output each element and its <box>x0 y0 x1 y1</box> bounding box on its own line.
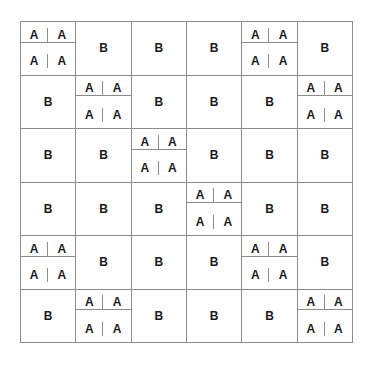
cell-a-label: A <box>269 268 296 282</box>
cell-b-label: B <box>21 290 76 344</box>
cell-b-label: B <box>132 76 187 130</box>
cell-a-label: A <box>76 108 103 122</box>
cell-b-label: B <box>132 290 187 344</box>
cell-a-block: AAAA <box>132 129 187 183</box>
cell-a-label: A <box>298 295 325 310</box>
cell-a-label: A <box>187 188 214 203</box>
cell-a-block: AAAA <box>298 290 353 344</box>
cell-b-label: B <box>298 236 353 290</box>
cell-b-label: B <box>187 76 242 130</box>
cell-a-label: A <box>298 108 325 122</box>
cell-a-label: A <box>76 322 103 336</box>
cell-a-label: A <box>103 322 130 336</box>
cell-a-label: A <box>187 215 214 229</box>
cell-a-label: A <box>159 135 186 150</box>
cell-b-label: B <box>76 22 131 76</box>
cell-a-label: A <box>103 295 130 310</box>
cell-a-block: AAAA <box>21 22 76 76</box>
cell-b-label: B <box>187 22 242 76</box>
cell-a-block: AAAA <box>242 236 297 290</box>
cell-b-label: B <box>242 183 297 237</box>
cell-a-label: A <box>269 28 296 43</box>
cell-a-label: A <box>325 322 352 336</box>
cell-a-label: A <box>76 295 103 310</box>
cell-a-label: A <box>242 28 269 43</box>
cell-a-label: A <box>48 54 75 68</box>
cell-a-label: A <box>298 81 325 96</box>
cell-a-label: A <box>159 161 186 175</box>
cell-b-label: B <box>21 76 76 130</box>
cell-a-label: A <box>103 108 130 122</box>
cell-a-label: A <box>325 295 352 310</box>
cell-a-label: A <box>48 268 75 282</box>
cell-b-label: B <box>298 183 353 237</box>
cell-a-label: A <box>242 268 269 282</box>
cell-b-label: B <box>242 129 297 183</box>
cell-b-label: B <box>187 129 242 183</box>
cell-a-label: A <box>325 108 352 122</box>
cell-a-label: A <box>103 81 130 96</box>
cell-a-label: A <box>242 242 269 257</box>
cell-a-block: AAAA <box>242 22 297 76</box>
cell-a-block: AAAA <box>21 236 76 290</box>
cell-b-label: B <box>76 129 131 183</box>
cell-b-label: B <box>298 22 353 76</box>
cell-b-label: B <box>187 290 242 344</box>
cell-b-label: B <box>76 183 131 237</box>
cell-a-block: AAAA <box>76 76 131 130</box>
cell-a-block: AAAA <box>76 290 131 344</box>
cell-b-label: B <box>132 183 187 237</box>
cell-a-label: A <box>48 28 75 43</box>
cell-a-block: AAAA <box>298 76 353 130</box>
cell-a-label: A <box>132 161 159 175</box>
cell-a-label: A <box>132 135 159 150</box>
cell-a-label: A <box>21 28 48 43</box>
cell-b-label: B <box>242 76 297 130</box>
cell-a-block: AAAA <box>187 183 242 237</box>
cell-a-label: A <box>21 54 48 68</box>
cell-b-label: B <box>132 22 187 76</box>
cell-b-label: B <box>21 129 76 183</box>
cell-a-label: A <box>214 188 241 203</box>
cell-a-label: A <box>298 322 325 336</box>
cell-a-label: A <box>21 268 48 282</box>
cell-a-label: A <box>48 242 75 257</box>
cell-a-label: A <box>269 54 296 68</box>
cell-a-label: A <box>21 242 48 257</box>
cell-b-label: B <box>242 290 297 344</box>
cell-b-label: B <box>21 183 76 237</box>
cell-a-label: A <box>269 242 296 257</box>
cell-a-label: A <box>242 54 269 68</box>
cell-b-label: B <box>132 236 187 290</box>
cell-a-label: A <box>76 81 103 96</box>
cell-b-label: B <box>76 236 131 290</box>
cell-b-label: B <box>187 236 242 290</box>
quadtree-grid: AAAABBBAAAABBAAAABBBAAAABBAAAABBBBBBAAAA… <box>20 21 353 343</box>
cell-a-label: A <box>214 215 241 229</box>
cell-b-label: B <box>298 129 353 183</box>
cell-a-label: A <box>325 81 352 96</box>
